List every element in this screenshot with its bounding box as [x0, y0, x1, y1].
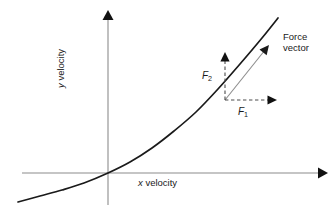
- f2-component-vector: [220, 52, 229, 100]
- force-vector-label-line2: vector: [283, 43, 309, 54]
- y-axis-label-variable: y: [55, 83, 66, 88]
- y-axis-label-text: velocity: [55, 49, 66, 83]
- f1-label: F1: [238, 106, 248, 117]
- force-vector-arrowhead: [259, 45, 269, 55]
- y-axis-arrowhead: [103, 10, 114, 20]
- f1-component-vector: [225, 95, 277, 104]
- x-axis-label: x velocity: [138, 178, 177, 189]
- y-axis-label: y velocity: [56, 49, 67, 88]
- force-vector-label: Force vector: [283, 32, 309, 53]
- y-axis: [103, 10, 114, 205]
- f2-subscript: 2: [208, 74, 212, 83]
- f2-arrowhead: [220, 52, 229, 62]
- x-axis-label-text: velocity: [143, 177, 177, 188]
- f1-arrowhead: [268, 95, 278, 104]
- velocity-force-diagram: x velocity y velocity Force vector F2 F1: [0, 0, 336, 215]
- x-axis-arrowhead: [318, 168, 328, 179]
- f1-subscript: 1: [244, 110, 248, 119]
- f2-label: F2: [202, 70, 212, 81]
